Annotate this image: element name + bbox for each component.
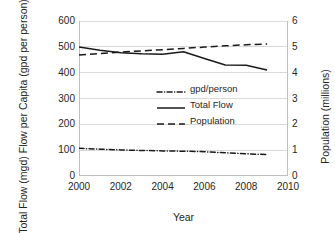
x-axis-tick-label: 2000 <box>62 182 96 192</box>
legend-label-total-flow: Total Flow <box>190 99 233 110</box>
legend-item-total-flow: Total Flow <box>156 96 252 112</box>
y-axis-right-tick-label: 5 <box>292 42 312 52</box>
legend-label-population: Population <box>190 115 235 126</box>
y-axis-left-tick-label: 300 <box>49 94 75 104</box>
chart-legend: gpd/personTotal FlowPopulation <box>156 80 252 128</box>
chart-figure: Total Flow (mgd) Flow per Capita (gpd pe… <box>0 0 335 233</box>
y-axis-right-tick-label: 2 <box>292 119 312 129</box>
x-axis-tick-label: 2008 <box>229 182 263 192</box>
legend-item-gpd-person: gpd/person <box>156 80 252 96</box>
y-axis-left-tick-label: 500 <box>49 42 75 52</box>
y-axis-left-title: Total Flow (mgd) Flow per Capita (gpd pe… <box>0 0 46 233</box>
y-axis-left-title-line2: Flow per Capita (gpd per person) <box>17 0 29 153</box>
x-axis-tick-label: 2010 <box>271 182 305 192</box>
x-axis-title: Year <box>79 211 288 223</box>
y-axis-right-tick-label: 1 <box>292 145 312 155</box>
y-axis-left-tick-label: 0 <box>49 171 75 181</box>
y-axis-right-tick-label: 6 <box>292 16 312 26</box>
y-axis-right-ticks: 0123456 <box>292 0 314 233</box>
y-axis-left-tick-label: 600 <box>49 16 75 26</box>
y-axis-right-tick-label: 4 <box>292 68 312 78</box>
x-axis-tick-label: 2004 <box>146 182 180 192</box>
legend-item-population: Population <box>156 112 252 128</box>
series-line-gpd-person <box>79 148 267 154</box>
y-axis-left-tick-label: 400 <box>49 68 75 78</box>
y-axis-right-tick-label: 3 <box>292 94 312 104</box>
legend-key-total-flow <box>156 99 186 109</box>
y-axis-left-title-line1: Total Flow (mgd) <box>17 156 29 233</box>
series-line-total-flow <box>79 47 267 70</box>
legend-key-gpd-person <box>156 83 186 93</box>
y-axis-right-title: Population (millions) <box>314 0 335 233</box>
legend-label-gpd-person: gpd/person <box>190 83 238 94</box>
x-axis-tick-label: 2006 <box>187 182 221 192</box>
legend-key-population <box>156 115 186 125</box>
x-axis-tick-label: 2002 <box>104 182 138 192</box>
y-axis-left-tick-label: 200 <box>49 119 75 129</box>
y-axis-left-tick-label: 100 <box>49 145 75 155</box>
y-axis-left-ticks: 0100200300400500600 <box>45 0 75 233</box>
y-axis-right-title-label: Population (millions) <box>319 69 331 164</box>
y-axis-right-tick-label: 0 <box>292 171 312 181</box>
